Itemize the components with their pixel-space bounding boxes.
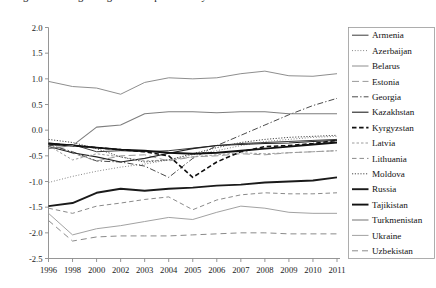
y-tick-label: -2.5 [29, 254, 43, 264]
legend-label: Azerbaijan [372, 46, 412, 56]
y-tick-label: -1.5 [29, 202, 43, 212]
y-tick-label: 1.0 [32, 74, 43, 84]
y-tick-label: 0.0 [32, 125, 43, 135]
x-tick-label: 2006 [208, 265, 226, 275]
legend-label: Armenia [372, 30, 404, 40]
x-tick-label: 1998 [64, 265, 81, 275]
x-tick-label: 2007 [232, 265, 250, 275]
legend-label: Lithuania [372, 154, 407, 164]
legend-label: Moldova [372, 169, 405, 179]
figure-container: Figure 3. Change in agricultural product… [0, 0, 436, 288]
line-chart: 2.01.51.00.50.0-0.5-1.0-1.5-2.0-2.5 1996… [0, 0, 436, 288]
y-axis: 2.01.51.00.50.0-0.5-1.0-1.5-2.0-2.5 [29, 23, 49, 264]
x-tick-label: 2004 [160, 265, 178, 275]
x-tick-label: 2000 [88, 265, 105, 275]
x-tick-label: 2005 [184, 265, 201, 275]
y-tick-label: -1.0 [29, 177, 43, 187]
x-tick-label: 2002 [112, 265, 129, 275]
series-lines [49, 71, 338, 241]
x-tick-label: 2008 [256, 265, 273, 275]
legend-label: Ukraine [372, 231, 401, 241]
x-axis: 1996199820002002200320042005200620072008… [40, 259, 346, 275]
x-tick-label: 2010 [304, 265, 321, 275]
figure-title: Figure 3. Change in agricultural product… [14, 0, 207, 2]
x-tick-label: 2011 [329, 265, 346, 275]
y-tick-label: -2.0 [29, 228, 43, 238]
x-tick-label: 2009 [280, 265, 297, 275]
series-line-georgia [49, 98, 338, 177]
chart-legend[interactable]: ArmeniaAzerbaijanBelarusEstoniaGeorgiaKa… [349, 28, 435, 259]
legend-label: Uzbekistan [372, 246, 413, 256]
series-line-belarus [49, 71, 338, 94]
y-tick-label: 0.5 [32, 100, 43, 110]
legend-label: Estonia [372, 77, 399, 87]
legend-label: Kazakhstan [372, 107, 415, 117]
x-tick-label: 1996 [40, 265, 58, 275]
legend-label: Belarus [372, 61, 400, 71]
series-line-uzbekistan [49, 221, 338, 242]
legend-label: Russia [372, 184, 396, 194]
legend-label: Georgia [372, 92, 401, 102]
series-line-ukraine [49, 206, 338, 235]
legend-label: Tajikistan [372, 200, 408, 210]
legend-label: Kyrgyzstan [372, 123, 414, 133]
series-line-russia [49, 177, 338, 206]
legend-label: Latvia [372, 138, 395, 148]
y-tick-label: 2.0 [32, 23, 43, 33]
y-tick-label: -0.5 [29, 151, 43, 161]
x-tick-label: 2003 [136, 265, 153, 275]
y-tick-label: 1.5 [32, 48, 43, 58]
legend-label: Turkmenistan [372, 215, 423, 225]
